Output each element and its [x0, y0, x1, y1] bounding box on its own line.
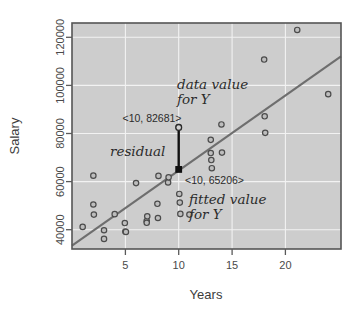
data-point: [261, 57, 266, 62]
xtick-label-10: 10: [173, 259, 185, 271]
annotation-fitted-value-line1: fitted value: [188, 191, 266, 207]
data-point: [219, 122, 224, 127]
x-axis-tick-labels: 5 10 15 20: [122, 259, 291, 271]
data-point: [219, 150, 224, 155]
data-point: [145, 214, 150, 219]
plot-canvas: 40000 60000 80000 100000 120000 5 10 15 …: [0, 0, 355, 314]
data-point: [156, 173, 161, 178]
data-point: [177, 200, 182, 205]
data-point: [101, 228, 106, 233]
data-point: [122, 220, 127, 225]
data-point: [177, 191, 182, 196]
data-point: [80, 224, 85, 229]
data-point: [144, 220, 149, 225]
data-point: [295, 27, 300, 32]
scatter-plot-figure: 40000 60000 80000 100000 120000 5 10 15 …: [0, 0, 355, 314]
annotation-fitted-coordinate: <10, 65206>: [185, 174, 244, 186]
data-point: [262, 114, 267, 119]
xtick-label-15: 15: [226, 259, 238, 271]
data-point: [91, 202, 96, 207]
x-axis-title: Years: [190, 287, 223, 302]
annotation-data-coordinate: <10, 82681>: [123, 112, 182, 124]
data-point: [209, 166, 214, 171]
y-axis-tick-labels: 40000 60000 80000 100000 120000: [54, 19, 66, 245]
annotation-data-value-line1: data value: [177, 76, 248, 92]
y-axis-title: Salary: [7, 117, 22, 154]
data-point: [325, 91, 330, 96]
ytick-label-60000: 60000: [54, 166, 66, 197]
data-point: [166, 175, 171, 180]
ytick-label-120000: 120000: [54, 19, 66, 56]
annotation-data-value-line2: for Y: [176, 91, 211, 107]
y-axis-ticks: [66, 37, 72, 229]
data-point: [155, 201, 160, 206]
xtick-label-20: 20: [279, 259, 291, 271]
ytick-label-80000: 80000: [54, 118, 66, 149]
annotation-residual: residual: [110, 143, 165, 159]
data-point: [208, 150, 213, 155]
fitted-value-point: [176, 167, 182, 173]
data-point: [263, 130, 268, 135]
ytick-label-100000: 100000: [54, 67, 66, 104]
data-point: [101, 236, 106, 241]
ytick-label-40000: 40000: [54, 214, 66, 245]
data-point: [133, 180, 138, 185]
data-point: [91, 173, 96, 178]
data-point: [209, 157, 214, 162]
x-axis-ticks: [125, 249, 285, 255]
observed-value-point: [176, 125, 182, 131]
data-point: [112, 211, 117, 216]
data-point: [208, 137, 213, 142]
data-point: [123, 229, 128, 234]
data-point: [91, 212, 96, 217]
data-point: [178, 211, 183, 216]
xtick-label-5: 5: [122, 259, 128, 271]
data-point: [155, 215, 160, 220]
annotation-fitted-value-line2: for Y: [188, 206, 223, 222]
